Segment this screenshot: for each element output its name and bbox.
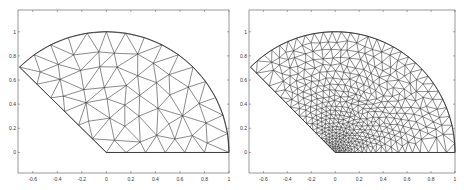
x-tick-label: 0.8 xyxy=(428,176,435,182)
x-tick-label: 0 xyxy=(334,176,337,182)
x-tick-label: -0.6 xyxy=(259,176,268,182)
y-tick-label: 0.8 xyxy=(9,53,16,59)
y-tick-label: 0.2 xyxy=(9,125,16,131)
triangle-mesh xyxy=(251,32,455,153)
y-tick-label: 0 xyxy=(244,149,247,155)
figure: -0.6-0.4-0.200.20.40.60.8100.20.40.60.81… xyxy=(0,0,464,190)
y-tick-label: 0.4 xyxy=(9,101,16,107)
y-tick-label: 1 xyxy=(13,29,16,35)
x-tick-label: 0.6 xyxy=(404,176,411,182)
x-tick-label: -0.2 xyxy=(307,176,316,182)
y-tick-label: 0.4 xyxy=(240,101,247,107)
y-tick-label: 1 xyxy=(244,29,247,35)
x-tick-label: 0.2 xyxy=(127,176,134,182)
x-tick-label: -0.4 xyxy=(53,176,62,182)
x-tick-label: -0.2 xyxy=(77,176,86,182)
refined-mesh-plot: -0.6-0.4-0.200.20.40.60.8100.20.40.60.81 xyxy=(240,10,457,182)
x-tick-label: 0.4 xyxy=(152,176,159,182)
y-tick-label: 0.8 xyxy=(240,53,247,59)
x-tick-label: 1 xyxy=(228,176,231,182)
sector-boundary xyxy=(251,32,455,153)
sector-boundary xyxy=(20,32,229,153)
y-tick-label: 0 xyxy=(13,149,16,155)
y-tick-label: 0.6 xyxy=(9,77,16,83)
x-tick-label: 0.8 xyxy=(201,176,208,182)
x-tick-label: 0.2 xyxy=(356,176,363,182)
x-tick-label: 0.6 xyxy=(176,176,183,182)
coarse-mesh-plot: -0.6-0.4-0.200.20.40.60.8100.20.40.60.81 xyxy=(9,10,231,182)
x-tick-label: -0.6 xyxy=(28,176,37,182)
x-tick-label: 1 xyxy=(454,176,457,182)
x-tick-label: 0.4 xyxy=(380,176,387,182)
triangle-mesh xyxy=(20,32,229,153)
x-tick-label: -0.4 xyxy=(283,176,292,182)
y-tick-label: 0.2 xyxy=(240,125,247,131)
axes-frame xyxy=(18,10,229,173)
y-tick-label: 0.6 xyxy=(240,77,247,83)
x-tick-label: 0 xyxy=(105,176,108,182)
